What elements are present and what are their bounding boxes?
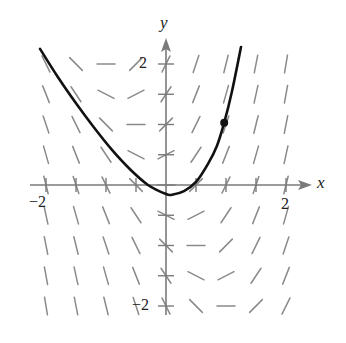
slope-segment — [132, 237, 140, 253]
slope-segment — [98, 90, 114, 98]
slope-segment — [254, 146, 259, 163]
slope-segment — [193, 55, 199, 72]
x-tick-label-2: 2 — [281, 196, 289, 212]
slope-segment — [133, 267, 140, 284]
slope-segment — [128, 90, 144, 98]
slope-segment — [224, 55, 228, 72]
slope-segment — [44, 237, 48, 255]
slope-segment — [254, 55, 258, 73]
slope-segment — [284, 85, 287, 103]
slope-segment — [283, 237, 289, 254]
slope-segment — [193, 86, 200, 103]
slope-segment — [284, 146, 288, 164]
slope-segment — [188, 211, 204, 219]
slope-segment — [282, 298, 290, 314]
x-tick-label-neg2: −2 — [29, 194, 46, 210]
y-tick-label-neg2: −2 — [132, 297, 149, 313]
slope-segment — [104, 267, 109, 284]
slope-segment — [74, 237, 78, 254]
slope-segment — [190, 300, 203, 313]
axes — [30, 38, 312, 315]
slope-segment — [131, 208, 141, 223]
slope-segment — [188, 272, 204, 280]
slope-segment — [224, 86, 229, 103]
slope-segment — [74, 207, 79, 224]
slope-segment — [223, 146, 230, 163]
initial-point — [220, 119, 228, 127]
slope-segment — [44, 267, 47, 285]
y-tick-label-2: 2 — [139, 55, 147, 71]
slope-segment — [44, 146, 49, 163]
slope-segment — [250, 300, 263, 313]
slope-segment — [284, 116, 288, 134]
slope-segment — [192, 116, 200, 132]
y-axis-label: y — [160, 14, 168, 31]
slope-segment — [252, 237, 260, 253]
slope-segment — [45, 297, 48, 315]
slope-segment — [70, 58, 83, 71]
slope-field-plot — [0, 0, 346, 343]
slope-segment — [103, 237, 109, 254]
slope-segment — [251, 268, 261, 283]
slope-segment — [103, 207, 110, 224]
slope-segment — [101, 147, 111, 162]
slope-segment — [100, 118, 113, 131]
slope-segment — [104, 297, 108, 314]
slope-segment — [253, 207, 260, 224]
slope-segment — [74, 297, 78, 315]
slope-segment — [221, 208, 231, 223]
slope-segment — [283, 267, 290, 284]
slope-segment — [74, 267, 78, 285]
slope-segment — [73, 146, 80, 163]
slope-segment — [43, 86, 50, 103]
slope-segment — [254, 116, 258, 133]
slope-segment — [254, 85, 258, 103]
slope-segment — [72, 116, 80, 132]
slope-segment — [220, 239, 233, 252]
slope-segment — [191, 147, 201, 162]
slope-segment — [128, 151, 144, 159]
x-axis-label: x — [317, 174, 325, 191]
slope-segment — [43, 116, 49, 133]
slope-segment — [218, 272, 234, 280]
slope-segment — [285, 55, 288, 73]
